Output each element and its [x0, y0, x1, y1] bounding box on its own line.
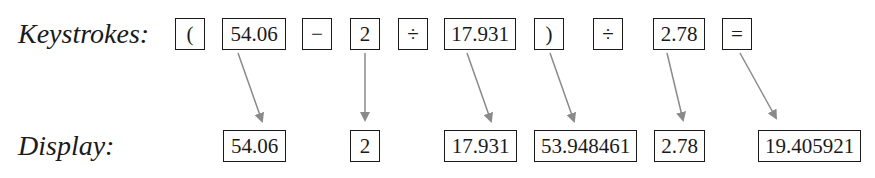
key-minus: −: [302, 18, 332, 50]
key-2-78: 2.78: [653, 18, 705, 50]
key-54-06: 54.06: [222, 18, 286, 50]
display-2-78: 2.78: [654, 130, 705, 162]
arrow-17-931: [467, 53, 491, 121]
display-label: Display:: [18, 132, 114, 160]
display-2: 2: [350, 130, 380, 162]
arrow-19-405921: [740, 53, 776, 118]
display-54-06: 54.06: [223, 130, 286, 162]
keystrokes-label: Keystrokes:: [18, 20, 149, 48]
key-equals: =: [722, 18, 752, 50]
key-open-paren: (: [175, 18, 205, 50]
key-17-931: 17.931: [444, 18, 516, 50]
display-19-405921: 19.405921: [758, 130, 861, 162]
key-2: 2: [350, 18, 380, 50]
display-53-948461: 53.948461: [534, 130, 637, 162]
arrow-54-06: [238, 53, 262, 121]
key-divide-2: ÷: [593, 18, 623, 50]
key-divide-1: ÷: [398, 18, 428, 50]
arrow-53-948461: [550, 53, 574, 121]
display-17-931: 17.931: [444, 130, 517, 162]
key-close-paren: ): [534, 18, 564, 50]
arrow-2-78: [667, 53, 683, 120]
